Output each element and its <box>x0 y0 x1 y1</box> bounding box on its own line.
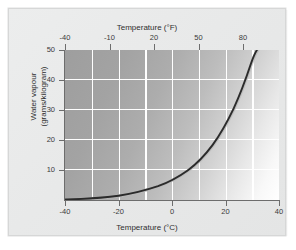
chart-panel: Temperature (°F) Temperature (°C) Water … <box>8 8 286 236</box>
x-tick-top--10 <box>110 44 111 50</box>
y-tick-label-10: 10 <box>37 166 55 174</box>
x-tick-label-bottom-0: 0 <box>160 208 184 216</box>
top-axis-title: Temperature (°F) <box>9 23 285 32</box>
x-tick-bottom--40 <box>65 201 66 206</box>
x-tick-label-top--10: -10 <box>98 34 122 42</box>
x-tick-bottom-0 <box>172 201 173 206</box>
figure-root: Temperature (°F) Temperature (°C) Water … <box>0 0 296 250</box>
x-tick-top--40 <box>65 44 66 50</box>
x-tick-label-top-20: 20 <box>142 34 166 42</box>
x-tick-top-20 <box>154 44 155 50</box>
x-tick-label-top--40: -40 <box>53 34 77 42</box>
y-tick-30 <box>59 110 65 111</box>
x-tick-bottom-20 <box>226 201 227 206</box>
y-tick-40 <box>59 80 65 81</box>
y-tick-10 <box>59 170 65 171</box>
x-tick-label-bottom-20: 20 <box>214 208 238 216</box>
x-tick-label-bottom--40: -40 <box>53 208 77 216</box>
y-tick-label-30: 30 <box>37 106 55 114</box>
x-tick-bottom-40 <box>279 201 280 206</box>
y-tick-label-20: 20 <box>37 136 55 144</box>
x-tick-label-top-50: 50 <box>187 34 211 42</box>
x-tick-label-bottom-40: 40 <box>267 208 291 216</box>
y-tick-label-40: 40 <box>37 76 55 84</box>
y-axis-line <box>64 50 65 201</box>
water-vapour-curve <box>65 50 279 200</box>
x-tick-top-80 <box>243 44 244 50</box>
x-tick-label-bottom--20: -20 <box>107 208 131 216</box>
x-tick-label-top-80: 80 <box>231 34 255 42</box>
y-axis-title-line1: Water vapour <box>29 42 39 152</box>
bottom-axis-title: Temperature (°C) <box>9 223 285 232</box>
y-tick-label-50: 50 <box>37 46 55 54</box>
y-axis-title: Water vapour (grams/kilogram) <box>29 42 48 152</box>
x-tick-bottom--20 <box>119 201 120 206</box>
x-tick-top-50 <box>199 44 200 50</box>
y-tick-50 <box>59 50 65 51</box>
y-tick-20 <box>59 140 65 141</box>
